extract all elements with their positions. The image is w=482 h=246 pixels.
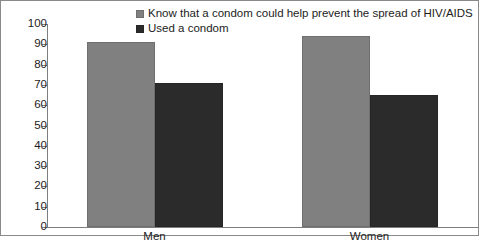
category-label-men: Men bbox=[105, 231, 205, 243]
y-tick-label: 40 bbox=[9, 140, 47, 152]
y-tick-label: 10 bbox=[9, 201, 47, 213]
y-tick-label: 60 bbox=[9, 99, 47, 111]
category-label-women: Women bbox=[320, 231, 420, 243]
y-tick-label: 100 bbox=[9, 18, 47, 30]
y-tick-label: 30 bbox=[9, 160, 47, 172]
plot-area bbox=[47, 24, 477, 227]
bar-women-series-2 bbox=[370, 95, 438, 227]
legend-swatch-icon-know bbox=[136, 10, 144, 18]
legend-item-know: Know that a condom could help prevent th… bbox=[136, 7, 473, 21]
y-tick-label: 0 bbox=[9, 221, 47, 233]
bar-men-series-1 bbox=[87, 42, 155, 227]
x-axis-line bbox=[47, 227, 478, 228]
y-tick-label: 50 bbox=[9, 120, 47, 132]
y-tick-label: 80 bbox=[9, 59, 47, 71]
y-tick-label: 70 bbox=[9, 79, 47, 91]
y-tick-label: 20 bbox=[9, 181, 47, 193]
bar-chart: Know that a condom could help prevent th… bbox=[0, 0, 482, 246]
bar-women-series-1 bbox=[302, 36, 370, 227]
bar-men-series-2 bbox=[155, 83, 223, 227]
legend-label-know: Know that a condom could help prevent th… bbox=[148, 8, 473, 20]
y-tick-label: 90 bbox=[9, 39, 47, 51]
